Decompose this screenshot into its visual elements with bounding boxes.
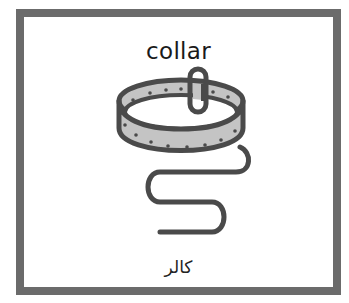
collar-icon xyxy=(24,17,333,287)
card-subtitle-farsi: کالر xyxy=(24,257,333,277)
symbol-card: collar xyxy=(16,9,341,295)
leash-icon xyxy=(148,147,249,232)
